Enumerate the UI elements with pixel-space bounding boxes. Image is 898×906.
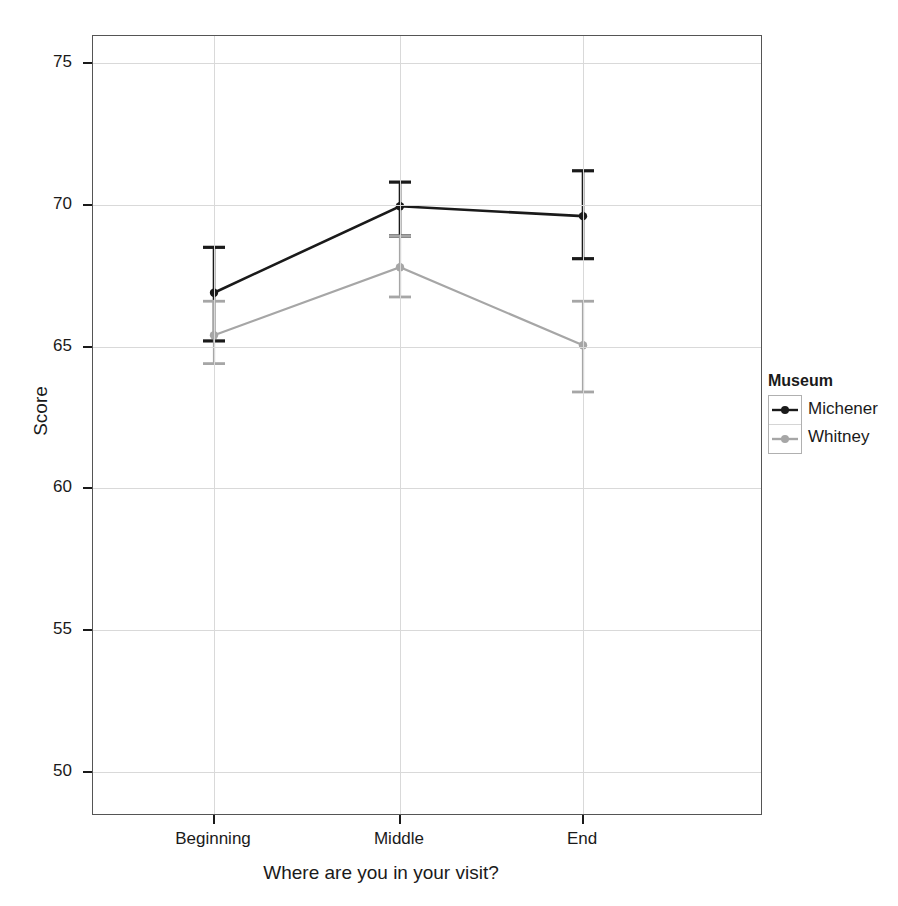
gridline-horizontal [93, 772, 761, 773]
legend-labels: MichenerWhitney [802, 395, 878, 451]
data-layer [93, 36, 763, 816]
legend-title: Museum [768, 372, 894, 390]
plot-area [92, 35, 762, 815]
y-axis-tick [83, 487, 92, 489]
series-line [214, 267, 583, 345]
y-axis-title: Score [30, 381, 52, 441]
legend-key-whitney [769, 424, 801, 453]
legend: Museum MichenerWhitney [768, 372, 894, 454]
line-chart: 505560657075 Score BeginningMiddleEnd Wh… [0, 0, 898, 906]
legend-key-box [768, 395, 802, 454]
gridline-horizontal [93, 488, 761, 489]
series-line [214, 206, 583, 292]
y-axis-tick-label: 65 [0, 336, 72, 356]
y-axis-tick [83, 629, 92, 631]
x-axis-tick-label: Middle [374, 829, 424, 849]
legend-label-whitney: Whitney [802, 423, 878, 451]
y-axis-tick-label: 60 [0, 477, 72, 497]
gridline-horizontal [93, 205, 761, 206]
x-axis-tick-label: Beginning [175, 829, 251, 849]
x-axis-tick-label: End [567, 829, 597, 849]
legend-label-michener: Michener [802, 395, 878, 423]
x-axis-tick [399, 815, 401, 824]
gridline-vertical [583, 36, 584, 814]
series-michener [203, 171, 594, 341]
x-axis-tick [213, 815, 215, 824]
y-axis-tick [83, 204, 92, 206]
gridline-horizontal [93, 63, 761, 64]
y-axis-tick [83, 771, 92, 773]
gridline-vertical [214, 36, 215, 814]
legend-symbol [769, 396, 801, 424]
legend-symbol [769, 425, 801, 453]
gridline-vertical [400, 36, 401, 814]
x-axis-title: Where are you in your visit? [0, 862, 762, 884]
y-axis-tick-label: 70 [0, 194, 72, 214]
legend-body: MichenerWhitney [768, 395, 894, 454]
y-axis-tick-label: 75 [0, 52, 72, 72]
legend-key-michener [769, 396, 801, 424]
x-axis-tick [582, 815, 584, 824]
y-axis-tick-label: 50 [0, 761, 72, 781]
y-axis-tick-label: 55 [0, 619, 72, 639]
gridline-horizontal [93, 347, 761, 348]
series-whitney [203, 236, 594, 392]
y-axis-tick [83, 62, 92, 64]
gridline-horizontal [93, 630, 761, 631]
y-axis-tick [83, 346, 92, 348]
